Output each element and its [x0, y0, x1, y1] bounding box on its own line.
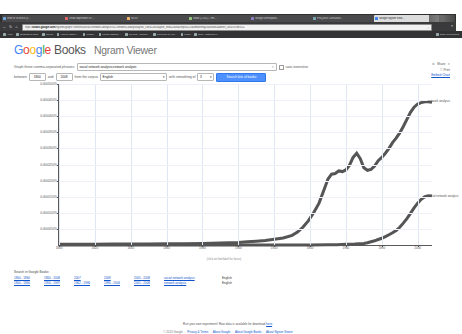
bookmark-item[interactable]: Suggested Sites	[16, 33, 38, 36]
series-line[interactable]	[59, 102, 432, 245]
chevron-down-icon: ▾	[210, 75, 212, 79]
corpus-select[interactable]: English ▾	[100, 73, 167, 81]
bookmark-item[interactable]: iCloud	[42, 33, 53, 36]
year-start-input[interactable]: 1800	[29, 73, 46, 81]
home-icon[interactable]: ⌂	[14, 24, 19, 29]
plot-area[interactable]: 1800182018401860188019001920194019601980…	[58, 84, 432, 246]
x-axis-tick-label: 1960	[343, 247, 350, 250]
tab-favicon-icon	[3, 17, 6, 20]
corpus-value: English	[103, 75, 113, 79]
corpus-label: from the corpus	[75, 75, 99, 79]
series-label[interactable]: social network analysis	[428, 195, 459, 198]
raw-data-note: Run your own experiment! Raw data is ava…	[0, 322, 456, 326]
year-range-link[interactable]: 1996 - 2004	[104, 281, 120, 285]
browser-menu-icon[interactable]: ≡	[450, 24, 454, 29]
product-name: Ngram Viewer	[94, 44, 157, 56]
bookmark-item[interactable]: WINDY	[83, 33, 95, 36]
folder-icon	[436, 33, 439, 36]
series-label[interactable]: network analysis	[428, 100, 450, 103]
phrase-input[interactable]: social network analysis,network analysis…	[77, 63, 277, 71]
bookmark-item[interactable]: Apps	[3, 33, 12, 36]
chevron-down-icon: ▾	[163, 75, 165, 79]
page-content: Google Books Ngram Viewer Graph these co…	[0, 38, 456, 306]
case-insensitive-checkbox[interactable]: case-insensitive	[279, 65, 308, 70]
bookmark-favicon-icon	[16, 33, 19, 36]
chart-actions-rail: ⚙ Share ▾ ⎙ Print Embed Chart	[392, 62, 450, 77]
options-row: between 1800 and 2008 from the corpus En…	[14, 73, 386, 81]
footer-link[interactable]: Privacy & Terms	[187, 330, 208, 334]
window-controls[interactable]	[429, 15, 455, 22]
year-range-cell: 1800 - 1860	[14, 281, 44, 285]
year-range-link[interactable]: 1962 - 1996	[74, 281, 90, 285]
browser-tab[interactable]: ProQuest Consultan...×	[312, 15, 377, 22]
checkbox-box[interactable]	[279, 65, 284, 70]
bookmark-item[interactable]: How to install i...	[57, 33, 79, 36]
series-line[interactable]	[59, 196, 432, 245]
browser-tab[interactable]: Google anthropolo...×	[250, 15, 315, 22]
bookmark-favicon-icon	[181, 33, 184, 36]
other-bookmarks-folder[interactable]: Other bookmarks	[436, 33, 459, 36]
tab-favicon-icon	[313, 17, 316, 20]
smoothing-select[interactable]: 3 ▾	[197, 73, 214, 81]
tab-favicon-icon	[189, 17, 192, 20]
year-end-input[interactable]: 2008	[56, 73, 73, 81]
year-range-link[interactable]: 2007	[74, 276, 81, 280]
bookmark-label: NPR : National P...	[198, 33, 219, 36]
browser-tab[interactable]: NIJS?×	[126, 15, 191, 22]
footer-link[interactable]: About Ngram Viewer	[266, 330, 293, 334]
year-range-link[interactable]: 2005 - 2008	[134, 276, 150, 280]
y-axis-tick-label: 0.0000300%	[40, 147, 57, 150]
browser-tab[interactable]: Show dependent of ...×	[64, 15, 129, 22]
bookmark-label: How to install i...	[60, 33, 78, 36]
share-action[interactable]: ⚙ Share ▾	[392, 62, 450, 66]
x-axis-tick-label: 1900	[235, 247, 242, 250]
query-link[interactable]: network analysis	[164, 281, 186, 285]
table-row: 1800 - 18601956 - 19971962 - 19961996 - …	[14, 281, 446, 286]
smoothing-value: 3	[200, 75, 202, 79]
bookmark-favicon-icon	[3, 33, 6, 36]
bookmark-label: Maps	[184, 33, 190, 36]
chevron-down-icon[interactable]: ▾	[272, 65, 274, 69]
browser-tab[interactable]: Web of Science (v...×	[2, 15, 67, 22]
bookmark-item[interactable]: Illinois Institute ...	[99, 33, 122, 36]
site-header: Google Books Ngram Viewer	[14, 44, 157, 57]
bookmark-item[interactable]: NPR : National P...	[194, 33, 218, 36]
year-range-link[interactable]: 1800 - 1860	[14, 276, 30, 280]
footer-link[interactable]: About Google	[213, 330, 231, 334]
search-in-books-title: Search in Google Books:	[14, 270, 446, 274]
year-range-link[interactable]: 1800 - 1860	[14, 281, 30, 285]
embed-chart-link[interactable]: Embed Chart	[392, 73, 450, 77]
back-icon[interactable]: ←	[2, 24, 7, 29]
copyright-text: © 2013 Google	[163, 330, 183, 334]
bookmark-item[interactable]: Maps	[181, 33, 191, 36]
reload-icon[interactable]: ↻	[8, 24, 13, 29]
raw-data-note-post: .	[272, 322, 273, 326]
smoothing-label: with smoothing of	[169, 75, 195, 79]
tab-label: Google anthropolo...	[255, 17, 311, 20]
bookmark-label: LS Test - Tutoria...	[129, 33, 149, 36]
bookmark-item[interactable]: Welcome to you...	[153, 33, 177, 36]
bookmark-star-icon[interactable]: ☆	[427, 26, 430, 30]
year-range-link[interactable]: 2008	[104, 276, 111, 280]
y-axis-tick-label: 0.0000200%	[40, 179, 57, 182]
url-text: https://books.google.com/ngrams/graph?co…	[25, 26, 245, 29]
bookmarks-bar: AppsSuggested SitesiCloudHow to install …	[0, 31, 462, 38]
year-range-link[interactable]: 1956 - 1997	[44, 281, 60, 285]
print-action[interactable]: ⎙ Print	[392, 68, 450, 72]
browser-tab[interactable]: Inbox (1,501) - em...×	[188, 15, 253, 22]
ngram-chart[interactable]: 1800182018401860188019001920194019601980…	[14, 82, 434, 262]
query-link[interactable]: social network analysis	[164, 276, 195, 280]
footer-separator: -	[184, 330, 187, 334]
x-axis-tick-label: 1820	[92, 247, 99, 250]
y-axis-tick-label: 0.0000050%	[40, 227, 57, 230]
google-books-ngram-logo[interactable]: Google Books Ngram Viewer	[14, 44, 157, 57]
and-label: and	[48, 75, 54, 79]
search-in-books-table: Search in Google Books: 1800 - 18601860 …	[14, 270, 446, 285]
year-range-link[interactable]: 2005 - 2008	[134, 281, 150, 285]
year-range-link[interactable]: 1860 - 2008	[44, 276, 60, 280]
search-button[interactable]: Search lots of books	[216, 73, 266, 82]
x-axis-tick-label: 1980	[378, 247, 385, 250]
year-range-cell: 1996 - 2004	[104, 281, 134, 285]
bookmark-item[interactable]: LS Test - Tutoria...	[125, 33, 149, 36]
footer-link[interactable]: About Google Books	[235, 330, 262, 334]
